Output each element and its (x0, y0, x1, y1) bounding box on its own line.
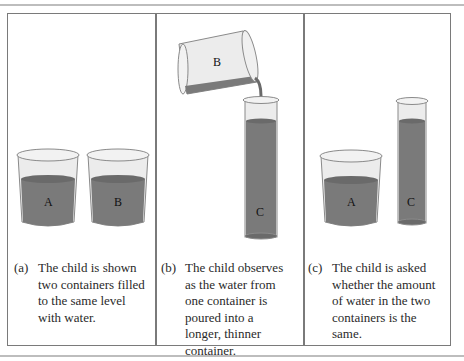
caption-line: The child is asked (332, 260, 435, 277)
tilted-beaker-b: B (178, 29, 261, 94)
caption-tag: (a) (14, 260, 28, 277)
caption-line: containers is the (332, 310, 435, 327)
tall-cylinder-c: C (243, 97, 279, 240)
comparison-illustration: A C (305, 14, 451, 254)
container-label: B (213, 55, 221, 69)
caption-tag: (c) (308, 260, 322, 277)
container-label: C (256, 205, 264, 219)
bottom-rule (0, 355, 464, 357)
caption-tag: (b) (161, 260, 176, 277)
beakers-equal-illustration: A B (8, 14, 155, 254)
container-label: A (44, 195, 53, 209)
panel-b: B C (b) The child observes as the water … (157, 14, 303, 345)
beaker-a: A (17, 149, 79, 226)
top-rule (0, 4, 464, 6)
caption-line: whether the amount (332, 277, 435, 294)
panel-a: A B (a) The child is shown two container… (8, 14, 155, 345)
container-label: C (407, 195, 415, 209)
caption-line: two containers filled (38, 277, 145, 294)
caption-line: to the same level (38, 293, 145, 310)
tall-cylinder-c: C (396, 98, 428, 226)
caption-line: with water. (38, 310, 145, 327)
pouring-illustration: B C (157, 14, 303, 254)
panel-c: A C (c) The child is asked whether the a… (305, 14, 451, 345)
caption-line: same. (332, 326, 435, 343)
caption-line: The child observes (185, 260, 283, 277)
caption-line: as the water from (185, 277, 283, 294)
caption-line: longer, thinner (185, 326, 283, 343)
caption-line: poured into a (185, 310, 283, 327)
caption-line: The child is shown (38, 260, 145, 277)
container-label: B (114, 195, 122, 209)
caption-line: one container is (185, 293, 283, 310)
caption-line: of water in the two (332, 293, 435, 310)
beaker-b: B (87, 149, 149, 226)
container-label: A (347, 195, 356, 209)
beaker-a: A (320, 150, 382, 226)
